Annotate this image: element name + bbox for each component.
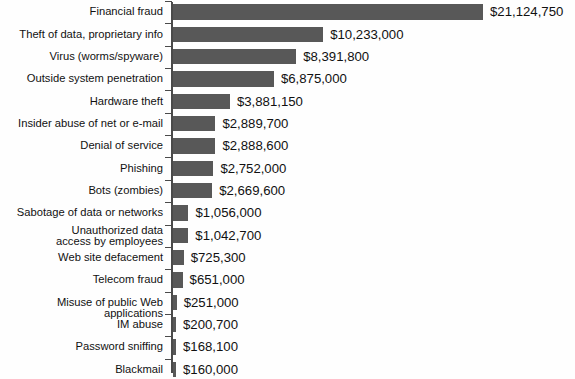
bar-and-value: $2,888,600: [173, 138, 288, 153]
bar-and-value: $1,056,000: [173, 205, 262, 220]
bar-and-value: $2,889,700: [173, 116, 288, 131]
axis-tick: [165, 359, 172, 360]
bar-value-label: $1,056,000: [195, 205, 261, 220]
bar: [173, 205, 188, 220]
axis-tick: [165, 23, 172, 24]
bar-and-value: $251,000: [173, 295, 239, 310]
bar-row: Theft of data, proprietary info$10,233,0…: [0, 23, 575, 45]
axis-tick: [165, 225, 172, 226]
bar-value-label: $2,752,000: [220, 161, 286, 176]
axis-tick: [165, 135, 172, 136]
bar-row: Hardware theft$3,881,150: [0, 90, 575, 112]
bar: [173, 228, 188, 243]
bar-value-label: $6,875,000: [281, 71, 347, 86]
bar: [173, 339, 176, 354]
bar-row: Outside system penetration$6,875,000: [0, 68, 575, 90]
bar-and-value: $6,875,000: [173, 71, 347, 86]
axis-tick: [165, 46, 172, 47]
bar-row: Virus (worms/spyware)$8,391,800: [0, 46, 575, 68]
category-label: Theft of data, proprietary info: [0, 29, 163, 41]
category-label: Password sniffing: [0, 341, 163, 353]
category-label: Insider abuse of net or e-mail: [0, 118, 163, 130]
bar-and-value: $3,881,150: [173, 94, 303, 109]
bar-value-label: $2,669,600: [219, 183, 285, 198]
bar-and-value: $1,042,700: [173, 228, 261, 243]
axis-tick: [165, 113, 172, 114]
bar: [173, 49, 296, 64]
bar-value-label: $168,100: [183, 339, 238, 354]
category-label: Bots (zombies): [0, 185, 163, 197]
bar: [173, 161, 213, 176]
bar: [173, 138, 215, 153]
bar-value-label: $1,042,700: [195, 228, 261, 243]
category-label: Denial of service: [0, 140, 163, 152]
category-label: Unauthorized data access by employees: [0, 225, 163, 248]
bar-row: Sabotage of data or networks$1,056,000: [0, 202, 575, 224]
axis-tick: [165, 247, 172, 248]
category-label: Hardware theft: [0, 96, 163, 108]
bar-value-label: $10,233,000: [330, 27, 403, 42]
category-label: Blackmail: [0, 364, 163, 376]
category-label: Telecom fraud: [0, 274, 163, 286]
axis-tick: [165, 292, 172, 293]
bar-and-value: $8,391,800: [173, 49, 369, 64]
bar: [173, 295, 177, 310]
chart-plot-area: Financial fraud$21,124,750Theft of data,…: [0, 0, 575, 379]
bar: [173, 362, 176, 377]
category-label: IM abuse: [0, 319, 163, 331]
bar-value-label: $251,000: [184, 295, 239, 310]
axis-tick: [165, 157, 172, 158]
axis-tick: [165, 90, 172, 91]
bar: [173, 116, 215, 131]
bar: [173, 183, 212, 198]
bar-and-value: $651,000: [173, 272, 245, 287]
bar-and-value: $168,100: [173, 339, 238, 354]
axis-tick: [165, 180, 172, 181]
bar: [173, 94, 230, 109]
axis-tick: [165, 269, 172, 270]
bar-value-label: $2,889,700: [222, 116, 288, 131]
bar-and-value: $2,752,000: [173, 161, 286, 176]
bar-value-label: $21,124,750: [490, 4, 563, 19]
axis-tick: [165, 314, 172, 315]
bar-row: Financial fraud$21,124,750: [0, 1, 575, 23]
bar-row: Blackmail$160,000: [0, 359, 575, 379]
bar-row: Unauthorized data access by employees$1,…: [0, 225, 575, 247]
bar: [173, 71, 274, 86]
bar-row: Bots (zombies)$2,669,600: [0, 180, 575, 202]
bar-row: Misuse of public Web applications$251,00…: [0, 292, 575, 314]
category-label: Phishing: [0, 163, 163, 175]
bar-and-value: $2,669,600: [173, 183, 285, 198]
bar-value-label: $725,300: [191, 250, 246, 265]
bar: [173, 250, 184, 265]
category-label: Outside system penetration: [0, 73, 163, 85]
category-label: Virus (worms/spyware): [0, 51, 163, 63]
bar-chart: Financial fraud$21,124,750Theft of data,…: [0, 0, 575, 379]
bar-value-label: $8,391,800: [303, 49, 369, 64]
bar: [173, 27, 323, 42]
bar-and-value: $160,000: [173, 362, 238, 377]
bar: [173, 4, 483, 19]
bar-row: Password sniffing$168,100: [0, 336, 575, 358]
bar-row: Insider abuse of net or e-mail$2,889,700: [0, 113, 575, 135]
bar: [173, 317, 176, 332]
bar-row: Telecom fraud$651,000: [0, 269, 575, 291]
bar-value-label: $3,881,150: [237, 94, 303, 109]
axis-tick: [165, 68, 172, 69]
axis-tick: [165, 202, 172, 203]
category-label: Sabotage of data or networks: [0, 207, 163, 219]
axis-tick: [165, 1, 172, 2]
bar-row: Phishing$2,752,000: [0, 157, 575, 179]
bar-value-label: $160,000: [183, 362, 238, 377]
axis-tick: [165, 336, 172, 337]
category-label: Web site defacement: [0, 252, 163, 264]
category-label: Financial fraud: [0, 6, 163, 18]
bar-and-value: $725,300: [173, 250, 246, 265]
bar-and-value: $21,124,750: [173, 4, 563, 19]
bar-row: Web site defacement$725,300: [0, 247, 575, 269]
bar-and-value: $200,700: [173, 317, 238, 332]
bar-and-value: $10,233,000: [173, 27, 404, 42]
bar-value-label: $2,888,600: [222, 138, 288, 153]
bar-value-label: $651,000: [190, 272, 245, 287]
bar: [173, 272, 183, 287]
